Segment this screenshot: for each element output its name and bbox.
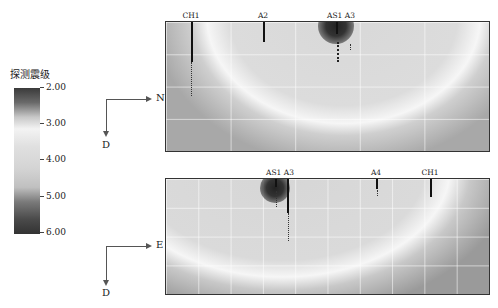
well-label-ch1: CH1: [182, 11, 199, 20]
well-ch1: [191, 22, 193, 62]
axis-label-d: D: [102, 287, 110, 298]
section-panel-nd: [165, 21, 490, 152]
well-label-as1-a3: AS1 A3: [266, 168, 294, 177]
section-panel-ed: [165, 178, 490, 295]
well-as1: [336, 22, 338, 34]
colorbar-tick: 3.00: [40, 118, 66, 128]
well-ch1: [430, 179, 432, 197]
colorbar: [14, 88, 40, 234]
well-as1: [275, 179, 277, 187]
well-label-a4: A4: [371, 168, 381, 177]
well-label-ch1: CH1: [421, 168, 438, 177]
well-a4: [376, 179, 378, 189]
axis-label-d: D: [102, 139, 110, 150]
colorbar-tick: 6.00: [40, 227, 66, 237]
axis-label-e: E: [156, 239, 163, 250]
well-a3: [287, 179, 289, 213]
well-label-as1-a3: AS1 A3: [327, 11, 355, 20]
well-a2: [263, 22, 265, 42]
axis-label-n: N: [156, 92, 165, 103]
colorbar-tick: 5.00: [40, 191, 66, 201]
colorbar-title: 探测震级: [10, 66, 50, 81]
colorbar-tick: 2.00: [40, 82, 66, 92]
colorbar-tick: 4.00: [40, 154, 66, 164]
well-label-a2: A2: [258, 11, 268, 20]
